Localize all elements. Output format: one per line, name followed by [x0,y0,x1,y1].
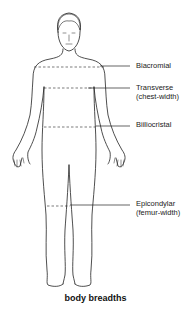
label-transverse-subtext: (chest-width) [136,93,179,102]
body-outline-left [13,49,63,167]
diagram-caption: body breadths [0,293,191,303]
label-biacromial-text: Biacromial [136,62,171,71]
head-outline [57,13,80,51]
label-epicondylar: Epicondylar (femur-width) [136,200,180,217]
label-biiliocristal: Biiliocristal [136,121,171,130]
label-biiliocristal-text: Biiliocristal [136,121,171,130]
label-transverse: Transverse (chest-width) [136,84,179,101]
label-biacromial: Biacromial [136,62,171,71]
label-epicondylar-subtext: (femur-width) [136,209,180,218]
human-figure-diagram [0,0,191,317]
body-outline-right [75,49,125,167]
